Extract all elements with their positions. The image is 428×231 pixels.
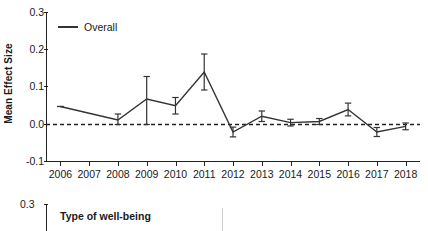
x-tick-mark — [291, 162, 292, 166]
x-tick-mark — [176, 162, 177, 166]
x-tick-mark — [118, 162, 119, 166]
x-tick-mark — [204, 162, 205, 166]
legend-item-label: Negative indicators — [86, 229, 175, 231]
x-tick-label: 2006 — [49, 168, 72, 180]
x-tick-label: 2009 — [135, 168, 158, 180]
x-tick-label: 2011 — [193, 168, 216, 180]
x-tick-mark — [348, 162, 349, 166]
x-tick-mark — [262, 162, 263, 166]
y-tick-label: 0.3 — [20, 198, 35, 210]
x-tick-mark — [233, 162, 234, 166]
x-tick-label: 2016 — [336, 168, 359, 180]
x-tick-label: 2012 — [221, 168, 244, 180]
series-line — [60, 72, 405, 132]
chart-panel-type-of-wellbeing: 0.3 Type of well-being Negative indicato… — [0, 190, 428, 231]
x-tick-label: 2010 — [164, 168, 187, 180]
x-tick-mark — [319, 162, 320, 166]
x-tick-label: 2013 — [250, 168, 273, 180]
x-tick-mark — [60, 162, 61, 166]
error-bar — [345, 103, 351, 116]
x-tick-mark — [406, 162, 407, 166]
x-tick-mark — [147, 162, 148, 166]
legend-divider — [222, 208, 223, 231]
x-tick-mark — [89, 162, 90, 166]
x-tick-label: 2017 — [365, 168, 388, 180]
x-tick-label: 2014 — [279, 168, 302, 180]
legend-type-of-wellbeing: Type of well-being Negative indicators — [60, 210, 220, 231]
error-bar — [201, 54, 207, 90]
x-tick-label: 2008 — [106, 168, 129, 180]
legend-title: Type of well-being — [60, 210, 220, 222]
x-tick-mark — [377, 162, 378, 166]
x-tick-label: 2018 — [394, 168, 417, 180]
series-overall-plot — [0, 0, 428, 190]
y-axis-line — [46, 204, 47, 231]
x-tick-label: 2007 — [78, 168, 101, 180]
x-tick-label: 2015 — [308, 168, 331, 180]
legend-item-negative-indicators[interactable]: Negative indicators — [60, 229, 220, 231]
chart-panel-overall: Mean Effect Size 0.3 0.2 0.1 0.0 -0.1 Ov… — [0, 0, 428, 190]
